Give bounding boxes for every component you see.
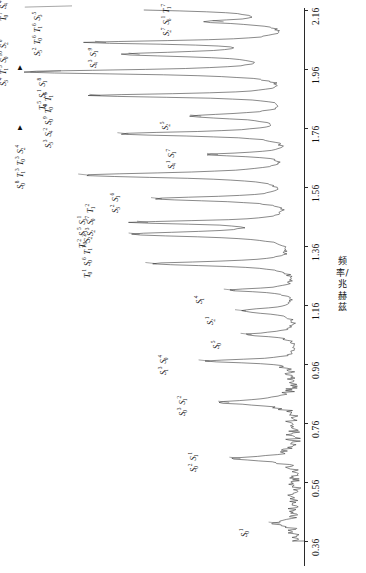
- axis-tick-6: [304, 187, 308, 188]
- mode-token: S27: [162, 26, 171, 36]
- peak-label-5: S21: [206, 313, 215, 325]
- peak-label-11: S08T13T03S24: [16, 142, 25, 189]
- axis-tick-label-7: 1.76: [311, 126, 321, 143]
- mode-token: S07: [86, 215, 95, 225]
- mode-token: S02: [189, 463, 198, 473]
- mode-token: T16: [33, 23, 42, 33]
- axis-tick-2: [304, 423, 308, 424]
- mode-token: S26: [0, 39, 8, 49]
- axis-tick-label-4: 1.16: [311, 303, 321, 320]
- mode-token: T13: [16, 168, 25, 178]
- mode-token: S010: [0, 50, 8, 62]
- mode-token: S05: [212, 339, 221, 349]
- mode-token: S17: [167, 147, 176, 157]
- peak-label-10: S32S16: [111, 190, 120, 213]
- axis-tick-0: [304, 541, 308, 542]
- axis-tick-label-3: 0.96: [311, 362, 321, 379]
- mode-token: S51: [38, 88, 47, 98]
- axis-tick-label-8: 1.96: [311, 67, 321, 84]
- mode-token: T17: [162, 3, 171, 13]
- axis-tick-9: [304, 10, 308, 11]
- axis-tick-label-6: 1.56: [311, 185, 321, 202]
- mode-token: T06: [33, 35, 42, 45]
- spectrum-figure: 0.36 0.56 0.76 0.96 1.16 1.36 1.56 1.76 …: [0, 0, 366, 573]
- axis-title: 频率/兆赫兹: [336, 256, 349, 314]
- mode-token: T01: [83, 268, 92, 278]
- mode-token: S04: [159, 354, 168, 364]
- mode-token: T02: [78, 238, 87, 248]
- mode-token: S18: [38, 76, 47, 86]
- peak-leader-line: [78, 174, 89, 175]
- mode-token: S52: [33, 47, 42, 57]
- peak-leader-line: [213, 21, 224, 22]
- mode-token: S23: [86, 227, 95, 237]
- mode-token: S21: [206, 315, 215, 325]
- mode-token: S41: [167, 159, 176, 169]
- axis-tick-label-0: 0.36: [311, 539, 321, 556]
- peak-label-16: S34T15S010S26: [0, 37, 8, 86]
- mode-token: S34: [0, 76, 8, 86]
- mode-token: S43: [89, 59, 98, 69]
- mode-token: S08: [16, 180, 25, 190]
- mode-token: S32: [111, 203, 120, 213]
- mode-token: S12: [178, 395, 187, 405]
- peak-label-15: T05S51S18: [38, 74, 47, 109]
- peak-label-3: S13S04: [159, 352, 168, 375]
- peak-leader-line: [25, 6, 72, 7]
- left-arrow-marker-lower: ▲: [16, 123, 24, 132]
- axis-tick-3: [304, 364, 308, 365]
- mode-token: S11: [189, 451, 198, 460]
- mode-token: S09: [44, 115, 53, 125]
- mode-token: S16: [111, 192, 120, 202]
- peak-label-14: S25: [161, 119, 170, 131]
- axis-tick-label-5: 1.36: [311, 244, 321, 261]
- mode-token: S14: [195, 295, 204, 305]
- mode-token: T07: [0, 11, 8, 21]
- axis-tick-label-1: 0.56: [311, 480, 321, 497]
- mode-token: S06: [83, 256, 92, 266]
- peak-label-0: S01: [240, 526, 249, 538]
- mode-token: S42: [44, 127, 53, 137]
- axis-tick-8: [304, 69, 308, 70]
- axis-tick-7: [304, 128, 308, 129]
- peak-label-18: S52T06T16S35: [33, 9, 42, 56]
- peak-label-20: T07S44S011T18S53: [0, 0, 8, 21]
- mode-token: T03: [16, 156, 25, 166]
- peak-label-2: S03S12: [178, 393, 187, 416]
- peak-label-6: S14: [195, 293, 204, 305]
- peak-leader-line: [199, 360, 210, 361]
- mode-token: S33: [44, 138, 53, 148]
- mode-token: T12: [86, 203, 95, 213]
- mode-token: S61: [162, 15, 171, 25]
- mode-token: S01: [240, 528, 249, 538]
- axis-tick-label-9: 2.16: [311, 8, 321, 25]
- peak-label-4: S05: [212, 337, 221, 349]
- mode-token: S44: [0, 0, 8, 9]
- mode-token: S25: [161, 121, 170, 131]
- peak-label-1: S02S11: [189, 449, 198, 472]
- axis-tick-5: [304, 246, 308, 247]
- mode-token: S24: [16, 144, 25, 154]
- mode-token: S13: [159, 365, 168, 375]
- peak-label-17: S43S19: [89, 45, 98, 68]
- mode-token: T15: [0, 64, 8, 74]
- mode-token: S35: [33, 11, 42, 21]
- peak-label-19: S27S61T17: [162, 1, 171, 36]
- axis-tick-1: [304, 482, 308, 483]
- axis-tick-label-2: 0.76: [311, 421, 321, 438]
- peak-label-9: S23S07T12: [86, 201, 95, 236]
- mode-token: S19: [89, 47, 98, 57]
- left-arrow-marker-upper: ▲: [16, 63, 24, 72]
- mode-token: S03: [178, 407, 187, 417]
- axis-tick-4: [304, 305, 308, 306]
- spectrum-curve: [24, 10, 304, 541]
- peak-leader-line: [145, 263, 156, 264]
- peak-label-12: S41S17: [167, 145, 176, 168]
- mode-token: T05: [38, 100, 47, 110]
